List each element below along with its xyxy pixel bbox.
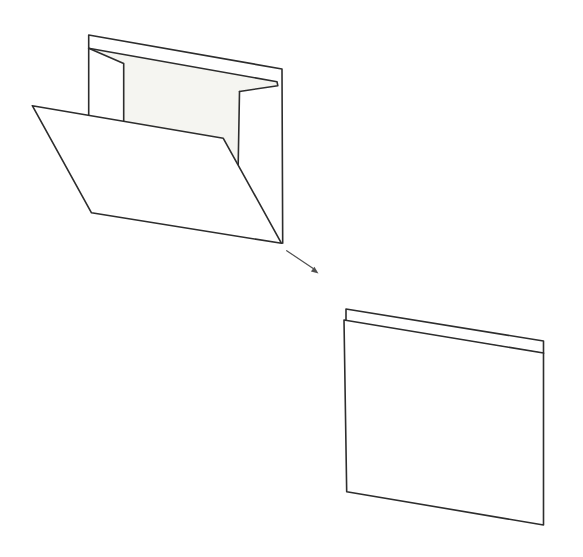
fold-instruction-page: [0, 0, 583, 557]
open-sheet-figure: [32, 35, 282, 243]
folded-result-figure: [344, 309, 544, 525]
front-flap: [32, 106, 281, 244]
fold-direction-arrow-icon: [287, 251, 319, 274]
front-panel: [344, 320, 544, 525]
arrow-shaft: [287, 251, 314, 269]
fold-diagram-canvas: [0, 0, 583, 557]
